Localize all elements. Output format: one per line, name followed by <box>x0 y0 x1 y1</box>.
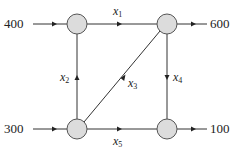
flow-label-300: 300 <box>4 121 24 136</box>
edge-x2: x2 <box>59 34 80 119</box>
node-bottom-right <box>157 119 177 139</box>
arrow-right-icon <box>52 127 57 132</box>
node-bottom-left <box>67 119 87 139</box>
node-top-right <box>157 14 177 34</box>
arrow-right-icon <box>191 127 196 132</box>
arrow-right-icon <box>117 127 122 132</box>
flow-out-600: 600 <box>177 16 230 31</box>
edge-label-x5: x5 <box>112 134 122 149</box>
arrow-right-icon <box>191 22 196 27</box>
edge-x3: x3 <box>84 31 160 122</box>
arrow-up-icon <box>75 75 80 80</box>
flow-in-300: 300 <box>4 121 67 136</box>
flow-label-100: 100 <box>210 121 230 136</box>
edge-label-x2: x2 <box>59 70 69 85</box>
arrow-down-icon <box>165 75 170 80</box>
edge-label-x3: x3 <box>127 76 137 91</box>
edge-x1: x1 <box>87 4 157 27</box>
arrow-right-icon <box>52 22 57 27</box>
node-top-left <box>67 14 87 34</box>
flow-in-400: 400 <box>4 16 67 31</box>
flow-label-600: 600 <box>210 16 230 31</box>
network-flow-diagram: 400 x1 600 x2 x3 x4 300 x5 <box>0 0 242 154</box>
edge-x4: x4 <box>165 34 183 119</box>
flow-label-400: 400 <box>4 16 24 31</box>
edge-label-x4: x4 <box>172 70 182 85</box>
edge-label-x1: x1 <box>112 4 122 19</box>
edge-x5: x5 <box>87 127 157 150</box>
arrow-right-icon <box>117 22 122 27</box>
flow-out-100: 100 <box>177 121 230 136</box>
